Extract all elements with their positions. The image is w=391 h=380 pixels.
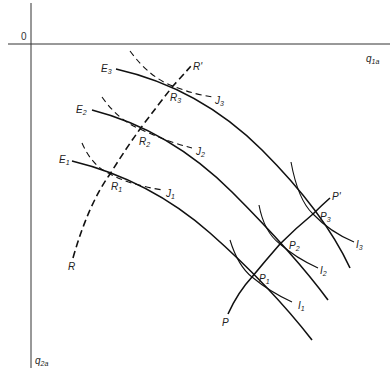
r2-label: R2 <box>139 136 150 148</box>
p-start-label: P <box>222 317 229 328</box>
e3-curve <box>116 69 350 268</box>
r1-label: R1 <box>111 181 122 193</box>
p1-label: P1 <box>259 273 270 285</box>
i2-label: I2 <box>320 265 327 277</box>
i3-label: I3 <box>356 239 363 251</box>
i3-curve <box>291 162 354 242</box>
i1-label: I1 <box>298 300 305 312</box>
y-axis-label: q2a <box>35 355 48 367</box>
p2-label: P2 <box>289 240 300 252</box>
diagram-canvas: 0 q1a q2a E3 E2 E1 J3 J2 J1 R R' R3 R2 R… <box>0 0 391 380</box>
e2-label: E2 <box>76 104 87 116</box>
j3-curve <box>130 51 214 97</box>
e1-label: E1 <box>59 154 70 166</box>
r-end-label: R' <box>193 61 203 72</box>
e2-curve <box>92 110 328 300</box>
j3-label: J3 <box>214 95 224 107</box>
origin-label: 0 <box>21 31 27 42</box>
j2-label: J2 <box>195 146 205 158</box>
e1-curve <box>72 161 312 340</box>
r-start-label: R <box>68 261 75 272</box>
r3-label: R3 <box>170 92 181 104</box>
j1-label: J1 <box>165 188 175 200</box>
p-end-label: P' <box>332 191 342 202</box>
e3-label: E3 <box>101 63 112 75</box>
p3-label: P3 <box>320 211 331 223</box>
x-axis-label: q1a <box>366 53 379 65</box>
